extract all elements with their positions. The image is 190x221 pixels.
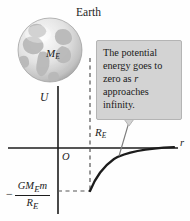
callout-leader-line [119,122,129,156]
potential-energy-curve [90,147,174,191]
numerator-gm: GM [18,180,34,191]
earth-radius-subscript: E [102,131,107,140]
earth-radius-label: RE [95,127,106,139]
fraction-denominator: RE [24,196,42,211]
callout-pointer-triangle [124,119,134,126]
callout-line-4: approaches [103,86,149,97]
gravitational-potential-energy-figure: Earth ME U r O RE − GMEm RE The potentia… [0,0,190,221]
fraction: GMEm RE [15,180,50,212]
fraction-numerator: GMEm [15,180,50,195]
denominator-subscript: E [33,201,38,211]
origin-label: O [62,152,70,163]
callout-line-3: zero as [103,73,134,84]
earth-radius-symbol: R [95,126,102,138]
callout-line-5: infinity. [103,99,135,110]
callout-box: The potentialenergy goes tozero as rappr… [96,40,182,120]
minimum-energy-value-label: − GMEm RE [6,180,50,212]
callout-text: The potentialenergy goes tozero as rappr… [103,46,176,111]
numerator-m: m [39,180,47,191]
x-axis-label: r [180,138,184,149]
y-axis-label: U [40,92,48,104]
callout-variable-r: r [134,73,138,84]
callout-line-2: energy goes to [103,60,162,71]
minus-sign: − [6,187,13,204]
callout-line-1: The potential [103,47,157,58]
